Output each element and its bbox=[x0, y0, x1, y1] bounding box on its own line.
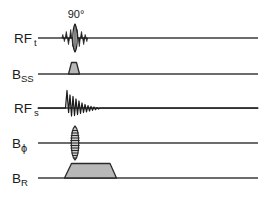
channel-sublabel-rf-t: t bbox=[34, 37, 37, 48]
pulse-sequence-canvas: RF t 90° B SS bbox=[0, 0, 273, 200]
flip-angle-annotation: 90° bbox=[68, 8, 85, 20]
sinc-lobe-inner-right-a bbox=[80, 32, 84, 45]
channel-label-rf-s: RF bbox=[14, 101, 32, 116]
channel-label-b-ss: B bbox=[12, 67, 21, 82]
channel-sublabel-b-ss: SS bbox=[21, 73, 34, 84]
channel-label-b-phi: B bbox=[12, 136, 21, 151]
channel-sublabel-b-phi: ϕ bbox=[21, 142, 27, 154]
channel-label-rf-t: RF bbox=[14, 31, 32, 46]
phase-encode-ladder bbox=[70, 126, 79, 160]
slice-select-gradient-lobe bbox=[69, 63, 80, 75]
readout-gradient-plateau bbox=[65, 164, 117, 179]
rf-excitation-pulse bbox=[62, 24, 88, 52]
pulse-sequence-diagram: RF t 90° B SS bbox=[0, 0, 273, 200]
received-signal-fid bbox=[38, 91, 258, 117]
channel-sublabel-b-r: R bbox=[21, 177, 28, 188]
channel-rf-s: RF s bbox=[14, 91, 258, 119]
channel-b-ss: B SS bbox=[12, 63, 258, 85]
sinc-lobe-outer-left bbox=[62, 35, 65, 42]
channel-b-r: B R bbox=[12, 164, 258, 189]
channel-b-phi: B ϕ bbox=[12, 126, 258, 160]
sinc-lobe-inner-left-a bbox=[65, 32, 69, 45]
channel-label-b-r: B bbox=[12, 171, 21, 186]
channel-rf-t: RF t 90° bbox=[14, 8, 258, 52]
